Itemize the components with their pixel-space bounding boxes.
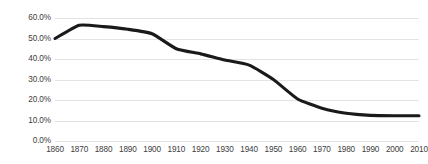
y-tick-label: 0.0% (0, 137, 51, 145)
series-line (55, 25, 419, 116)
x-tick-label: 2000 (386, 146, 404, 154)
x-tick-label: 1910 (168, 146, 186, 154)
y-tick-label: 20.0% (0, 96, 51, 104)
x-tick-label: 1870 (70, 146, 88, 154)
gridline (55, 141, 419, 142)
x-tick-label: 1900 (143, 146, 161, 154)
x-tick-label: 1980 (337, 146, 355, 154)
y-tick-label: 60.0% (0, 14, 51, 22)
x-tick-label: 1990 (362, 146, 380, 154)
plot-area (55, 18, 419, 141)
x-tick-label: 1940 (240, 146, 258, 154)
x-tick-label: 1860 (46, 146, 64, 154)
y-tick-label: 40.0% (0, 55, 51, 63)
x-tick-label: 1930 (216, 146, 234, 154)
x-tick-label: 1920 (192, 146, 210, 154)
y-tick-label: 10.0% (0, 117, 51, 125)
y-tick-label: 30.0% (0, 76, 51, 84)
x-tick-label: 1950 (265, 146, 283, 154)
x-tick-label: 2010 (410, 146, 428, 154)
y-axis-tick-labels: 60.0%50.0%40.0%30.0%20.0%10.0%0.0% (0, 0, 51, 164)
x-tick-label: 1880 (95, 146, 113, 154)
x-tick-label: 1960 (289, 146, 307, 154)
x-axis-tick-labels: 1860187018801890190019101920193019401950… (55, 146, 419, 162)
y-tick-label: 50.0% (0, 35, 51, 43)
x-tick-label: 1890 (119, 146, 137, 154)
x-tick-label: 1970 (313, 146, 331, 154)
series-layer (55, 18, 419, 141)
